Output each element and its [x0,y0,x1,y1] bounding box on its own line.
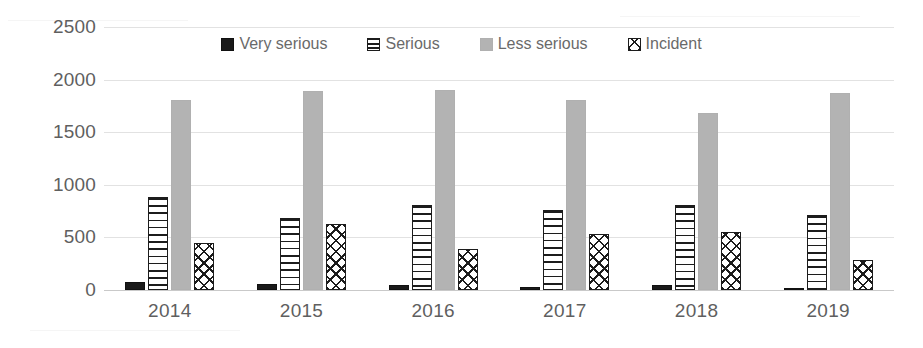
bar [853,260,873,291]
bar [830,93,850,290]
legend-item-label: Very serious [239,36,327,52]
bar [412,205,432,290]
bar [303,91,323,290]
bar [807,215,827,290]
y-axis-tick-label: 500 [24,227,96,246]
bar [194,243,214,290]
grouped-bar-chart: 05001000150020002500 2014201520162017201… [0,0,923,348]
bar [257,284,277,290]
bar-group [236,27,368,290]
bar-group [104,27,236,290]
x-axis-tick-label: 2014 [104,296,236,330]
y-axis-tick-label: 1000 [24,175,96,194]
x-axis: 201420152016201720182019 [104,296,894,330]
bar [675,205,695,290]
legend-item-label: Less serious [498,36,588,52]
bar [171,100,191,290]
solid-gray-swatch [480,38,493,51]
legend-item[interactable]: Incident [628,36,702,52]
bar [148,197,168,290]
bar [435,90,455,290]
legend-item[interactable]: Serious [367,36,439,52]
bar-groups [104,27,894,290]
bar [784,288,804,290]
legend-item[interactable]: Very serious [221,36,327,52]
bar [280,218,300,290]
bar-group [631,27,763,290]
y-axis-tick-label: 0 [24,280,96,299]
axis-baseline [104,290,894,291]
y-axis-tick-label: 2500 [24,17,96,36]
bar [566,100,586,290]
bar [326,224,346,290]
legend-item-label: Serious [385,36,439,52]
legend-item[interactable]: Less serious [480,36,588,52]
x-axis-tick-label: 2017 [499,296,631,330]
bar [520,287,540,290]
legend-item-label: Incident [646,36,702,52]
bar-group [762,27,894,290]
y-axis-tick-label: 1500 [24,122,96,141]
bar-group [367,27,499,290]
bar-group [499,27,631,290]
y-axis-tick-label: 2000 [24,70,96,89]
bar [125,282,145,290]
bar [543,210,563,290]
x-axis-tick-label: 2016 [367,296,499,330]
bar [698,113,718,290]
diagonal-crosshatch-swatch [628,38,641,51]
y-axis: 05001000150020002500 [10,0,96,348]
x-axis-tick-label: 2018 [631,296,763,330]
horizontal-lines-swatch [367,38,380,51]
bar [589,234,609,290]
scan-artifact [620,16,860,17]
x-axis-tick-label: 2015 [236,296,368,330]
plot-area [104,27,894,290]
bar [652,285,672,290]
x-axis-tick-label: 2019 [762,296,894,330]
solid-black-swatch [221,38,234,51]
bar [458,249,478,290]
bar [721,232,741,290]
bar [389,285,409,290]
